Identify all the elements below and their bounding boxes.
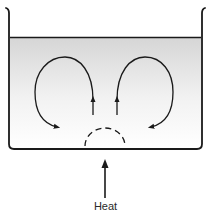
heat-arrow-head-icon	[102, 159, 109, 168]
convection-diagram	[0, 0, 211, 220]
heat-label: Heat	[0, 200, 211, 212]
